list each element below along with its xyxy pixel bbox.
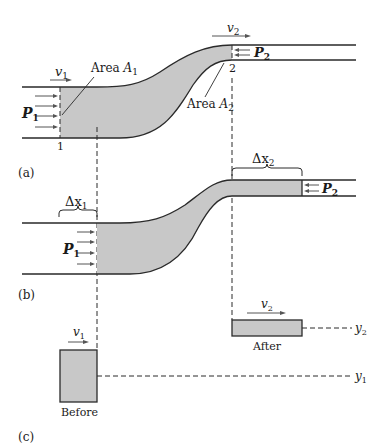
fluid-region-a bbox=[60, 45, 232, 138]
dx2-label: Δx2 bbox=[252, 151, 274, 168]
after-label: After bbox=[252, 340, 282, 353]
before-label: Before bbox=[61, 406, 98, 419]
v1-label-c: v1 bbox=[73, 325, 85, 341]
panel-a-label: (a) bbox=[18, 166, 35, 180]
dx1-label: Δx1 bbox=[65, 194, 87, 211]
panel-a: v1 Area A1 P1 1 v2 P2 2 Area A2 (a) bbox=[18, 21, 356, 180]
v1-label-a: v1 bbox=[55, 64, 68, 81]
p1-arrows-b bbox=[77, 230, 95, 266]
after-fluid-block bbox=[232, 320, 302, 336]
v2-label-c: v2 bbox=[261, 297, 273, 313]
p2-label-a: P2 bbox=[253, 45, 270, 62]
before-fluid-block bbox=[60, 350, 97, 402]
area2-label: Area A2 bbox=[186, 97, 234, 113]
bernoulli-diagram: v1 Area A1 P1 1 v2 P2 2 Area A2 (a) bbox=[0, 0, 386, 444]
p2-arrows-b bbox=[304, 183, 319, 193]
v2-label-a: v2 bbox=[227, 21, 240, 37]
p2-label-b: P2 bbox=[321, 181, 338, 198]
section2-label: 2 bbox=[229, 62, 236, 75]
panel-b-label: (b) bbox=[18, 288, 35, 302]
p1-label-a: P1 bbox=[21, 105, 39, 123]
panel-c: v2 After y2 v1 Before y1 (c) bbox=[18, 297, 367, 444]
panel-c-label: (c) bbox=[18, 430, 34, 444]
panel-b: Δx1 Δx2 P1 P2 (b) bbox=[18, 151, 356, 302]
p1-arrows-a bbox=[35, 94, 58, 129]
section1-label: 1 bbox=[57, 140, 64, 153]
area1-label: Area A1 bbox=[90, 61, 138, 77]
y1-label: y1 bbox=[354, 369, 367, 385]
v2-arrow-c bbox=[247, 311, 286, 315]
y2-label: y2 bbox=[354, 321, 367, 337]
p2-arrows-a bbox=[234, 48, 250, 57]
v1-arrow-c bbox=[68, 340, 89, 344]
p1-label-b: P1 bbox=[62, 241, 80, 259]
